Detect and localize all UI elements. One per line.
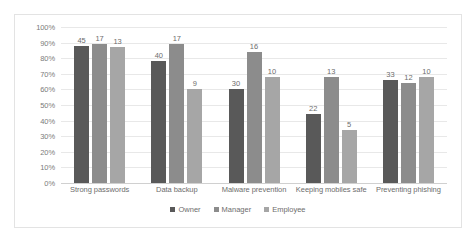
bar-data-label: 5	[335, 120, 363, 129]
bar-employee[interactable]	[110, 47, 125, 183]
legend-label: Owner	[178, 205, 200, 214]
bar-employee[interactable]	[419, 77, 434, 183]
bar-column[interactable]: 13	[110, 27, 125, 183]
legend-swatch-icon	[264, 207, 269, 212]
plot-area: 4517134017930161022135331210	[61, 27, 447, 183]
bar-column[interactable]: 22	[306, 27, 321, 183]
legend-label: Employee	[272, 205, 305, 214]
legend-swatch-icon	[170, 207, 175, 212]
y-axis-tick-label: 20%	[40, 147, 55, 156]
bar-data-label: 13	[104, 37, 132, 46]
bar-employee[interactable]	[187, 89, 202, 183]
bar-owner[interactable]	[229, 89, 244, 183]
bar-column[interactable]: 17	[169, 27, 184, 183]
y-axis-tick-label: 100%	[36, 23, 55, 32]
y-axis-tick-label: 70%	[40, 69, 55, 78]
x-axis-category-label: Preventing phishing	[370, 185, 447, 194]
bar-employee[interactable]	[265, 77, 280, 183]
bar-group: 301610	[215, 27, 292, 183]
y-axis-tick-label: 60%	[40, 85, 55, 94]
y-axis-tick-label: 40%	[40, 116, 55, 125]
bar-column[interactable]: 5	[342, 27, 357, 183]
legend-item-owner[interactable]: Owner	[170, 205, 200, 214]
bar-data-label: 9	[181, 79, 209, 88]
y-axis-tick-label: 10%	[40, 163, 55, 172]
legend-item-manager[interactable]: Manager	[214, 205, 252, 214]
y-axis-tick-label: 90%	[40, 38, 55, 47]
bar-column[interactable]: 33	[383, 27, 398, 183]
legend-swatch-icon	[214, 207, 219, 212]
bar-column[interactable]: 45	[74, 27, 89, 183]
bar-manager[interactable]	[169, 44, 184, 183]
bar-manager[interactable]	[401, 83, 416, 183]
y-axis-tick-label: 0%	[44, 179, 55, 188]
legend-label: Manager	[222, 205, 252, 214]
bar-manager[interactable]	[324, 77, 339, 183]
chart-container: 100%90%80%70%60%50%40%30%20%10%0% 451713…	[14, 14, 462, 228]
y-axis-tick-label: 30%	[40, 132, 55, 141]
bar-manager[interactable]	[92, 44, 107, 183]
bar-column[interactable]: 16	[247, 27, 262, 183]
x-axis-category-label: Strong passwords	[61, 185, 138, 194]
bar-column[interactable]: 10	[265, 27, 280, 183]
bar-column[interactable]: 10	[419, 27, 434, 183]
x-axis-category-label: Malware prevention	[215, 185, 292, 194]
x-axis-category-label: Data backup	[138, 185, 215, 194]
bar-group: 451713	[61, 27, 138, 183]
y-axis-tick-label: 50%	[40, 101, 55, 110]
bar-group: 22135	[293, 27, 370, 183]
bar-column[interactable]: 13	[324, 27, 339, 183]
gridline	[61, 183, 447, 184]
y-axis-tick-label: 80%	[40, 54, 55, 63]
bar-column[interactable]: 12	[401, 27, 416, 183]
y-axis-tick-labels: 100%90%80%70%60%50%40%30%20%10%0%	[19, 27, 59, 183]
bar-owner[interactable]	[306, 114, 321, 183]
bar-groups: 4517134017930161022135331210	[61, 27, 447, 183]
bar-employee[interactable]	[342, 130, 357, 183]
bar-data-label: 10	[412, 67, 440, 76]
chart-legend: OwnerManagerEmployee	[15, 205, 461, 214]
bar-owner[interactable]	[74, 46, 89, 183]
bar-owner[interactable]	[383, 80, 398, 183]
bar-group: 331210	[370, 27, 447, 183]
bar-owner[interactable]	[151, 61, 166, 183]
x-axis-category-label: Keeping mobiles safe	[293, 185, 370, 194]
bar-column[interactable]: 17	[92, 27, 107, 183]
x-axis-category-labels: Strong passwordsData backupMalware preve…	[61, 185, 447, 194]
bar-column[interactable]: 9	[187, 27, 202, 183]
bar-group: 40179	[138, 27, 215, 183]
legend-item-employee[interactable]: Employee	[264, 205, 305, 214]
bar-data-label: 10	[258, 67, 286, 76]
bar-column[interactable]: 40	[151, 27, 166, 183]
